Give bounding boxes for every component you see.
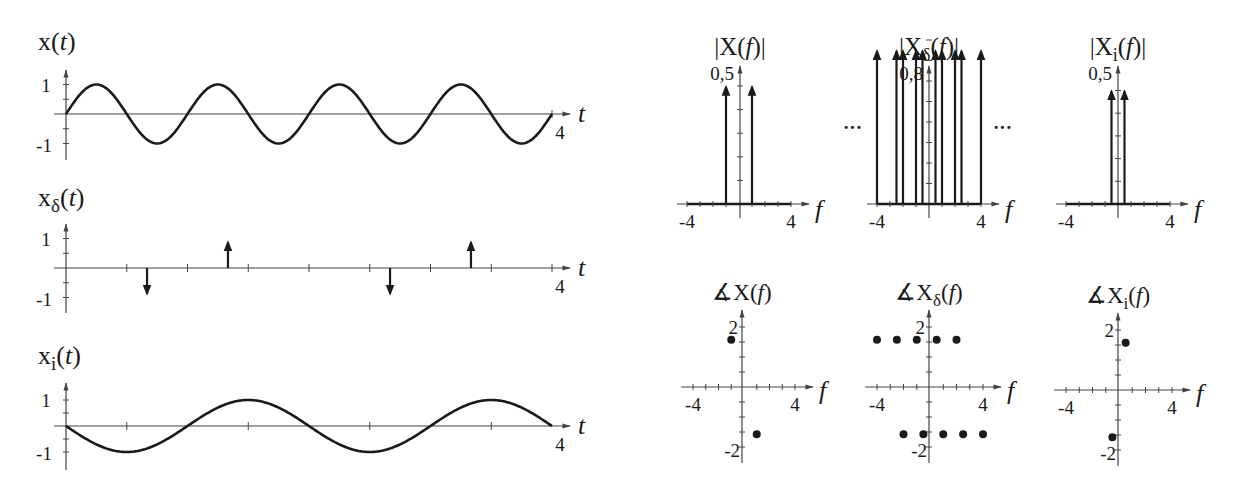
title-close: )| xyxy=(753,33,766,61)
continuation-left: ··· xyxy=(843,117,862,138)
chart-title: |Xi(f)| xyxy=(1090,33,1147,65)
x-tick-label: 4 xyxy=(1167,397,1177,418)
panel-phase-X-delta: ∡Xδ(f)-442-2f xyxy=(865,280,1018,463)
y-tick-label: 2 xyxy=(1105,320,1115,341)
x-tick-label: 4 xyxy=(976,211,986,232)
panel-mag-X-i: |Xi(f)|-440,5f xyxy=(1056,33,1205,232)
phase-point xyxy=(979,430,987,438)
continuation-right: ··· xyxy=(993,117,1012,138)
panel-phase-X-i: ∡Xi(f)-442-2f xyxy=(1054,283,1207,466)
y-tick-label: -2 xyxy=(724,440,740,461)
y-tick-label: -2 xyxy=(911,440,927,461)
title-close: )| xyxy=(946,33,959,61)
y-tick-label: -1 xyxy=(36,135,52,156)
title-close: ) xyxy=(72,341,81,370)
chart-title: xi(t) xyxy=(38,341,81,374)
title-main: ∡X xyxy=(712,280,750,305)
title-main: ∡X xyxy=(1086,283,1124,308)
title-main: x xyxy=(38,341,51,370)
phase-point xyxy=(1108,433,1116,441)
title-close: ) xyxy=(955,280,963,305)
x-axis-label: f xyxy=(819,376,830,405)
x-axis-label: f xyxy=(1005,195,1016,224)
y-tick-label: 1 xyxy=(41,229,51,250)
panel-x-t: x(t)1-14t xyxy=(36,27,586,160)
title-paren: ( xyxy=(1118,33,1126,61)
x-tick-label: 4 xyxy=(555,434,565,455)
x-axis-label: t xyxy=(578,411,586,440)
panel-phase-X: ∡X(f)-442-2f xyxy=(681,280,830,463)
signal-spectra-figure: x(t)1-14txδ(t)1-14txi(t)1-14t|X(f)|-440,… xyxy=(0,0,1234,491)
title-main: ∡X xyxy=(895,280,933,305)
x-tick-label: 4 xyxy=(555,122,565,143)
x-axis-label: f xyxy=(1194,195,1205,224)
title-subscript: δ xyxy=(51,195,60,216)
title-paren: ( xyxy=(60,183,69,212)
title-main: |X xyxy=(1090,33,1113,60)
title-main: x( xyxy=(38,27,60,56)
x-axis-label: t xyxy=(578,253,586,282)
y-tick-label: 0,5 xyxy=(710,63,734,84)
title-main: |X xyxy=(714,33,737,60)
phase-point xyxy=(953,336,961,344)
phase-point xyxy=(919,430,927,438)
x-tick-label: -4 xyxy=(869,211,885,232)
title-close: ) xyxy=(76,183,85,212)
chart-title: x(t) xyxy=(38,27,76,56)
y-tick-label: -2 xyxy=(1100,443,1116,464)
phase-point xyxy=(959,430,967,438)
panel-mag-X-delta: |Xδ(f)|-440,8f······ xyxy=(843,33,1016,232)
x-axis-label: t xyxy=(578,99,586,128)
title-paren: ( xyxy=(1128,283,1136,308)
title-close: ) xyxy=(67,27,76,56)
chart-title: ∡Xδ(f) xyxy=(895,280,962,310)
panel-x-delta-t: xδ(t)1-14t xyxy=(36,183,586,313)
x-axis-label: f xyxy=(815,195,826,224)
title-close: ) xyxy=(1142,283,1150,308)
chart-title: ∡X(f) xyxy=(712,280,771,305)
chart-title: ∡Xi(f) xyxy=(1086,283,1150,313)
title-paren: ( xyxy=(750,280,758,305)
title-paren: ( xyxy=(737,33,745,61)
phase-point xyxy=(913,336,921,344)
x-tick-label: 4 xyxy=(790,394,800,415)
x-axis-label: f xyxy=(1196,379,1207,408)
panel-x-i-t: xi(t)1-14t xyxy=(36,341,586,470)
y-tick-label: -1 xyxy=(36,443,52,464)
phase-point xyxy=(893,336,901,344)
chart-title: xδ(t) xyxy=(38,183,85,216)
title-subscript: δ xyxy=(933,291,941,310)
chart-title: |X(f)| xyxy=(714,33,766,61)
y-tick-label: 2 xyxy=(729,317,739,338)
panel-mag-X: |X(f)|-440,5f xyxy=(677,33,826,232)
phase-point xyxy=(933,336,941,344)
x-tick-label: 4 xyxy=(786,211,796,232)
title-close: ) xyxy=(764,280,772,305)
title-close: )| xyxy=(1133,33,1146,61)
phase-point xyxy=(1122,339,1130,347)
x-tick-label: -4 xyxy=(679,211,695,232)
title-main: x xyxy=(38,183,51,212)
y-tick-label: -1 xyxy=(36,289,52,310)
x-tick-label: -4 xyxy=(1058,397,1074,418)
x-tick-label: -4 xyxy=(869,394,885,415)
title-paren: ( xyxy=(56,341,65,370)
y-tick-label: 0,5 xyxy=(1088,63,1112,84)
x-tick-label: 4 xyxy=(978,394,988,415)
y-tick-label: 1 xyxy=(41,75,51,96)
x-tick-label: 4 xyxy=(555,276,565,297)
x-tick-label: -4 xyxy=(685,394,701,415)
phase-point xyxy=(753,430,761,438)
title-paren: ( xyxy=(941,280,949,305)
phase-point xyxy=(939,430,947,438)
x-axis-label: f xyxy=(1007,376,1018,405)
phase-point xyxy=(727,336,735,344)
x-tick-label: -4 xyxy=(1058,211,1074,232)
phase-point xyxy=(900,430,908,438)
y-tick-label: 2 xyxy=(916,317,926,338)
phase-point xyxy=(873,336,881,344)
y-tick-label: 1 xyxy=(41,390,51,411)
x-tick-label: 4 xyxy=(1165,211,1175,232)
